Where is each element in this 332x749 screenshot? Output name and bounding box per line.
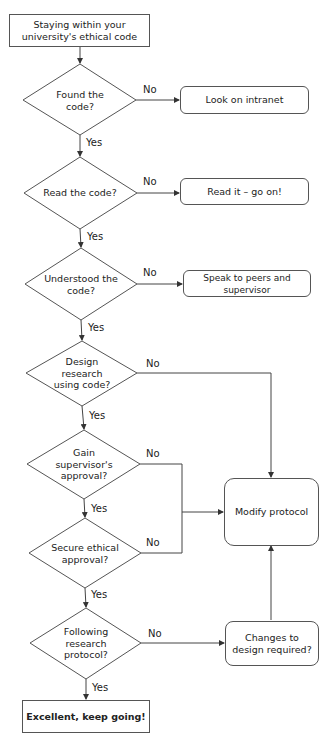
no-label-6: No bbox=[146, 537, 160, 548]
no-label-3: No bbox=[143, 267, 157, 278]
yes-label-4: Yes bbox=[89, 410, 105, 421]
decision-label-4: Design research using code? bbox=[48, 356, 116, 391]
end-box: Excellent, keep going! bbox=[22, 700, 150, 733]
changes-design-box: Changes to design required? bbox=[225, 621, 319, 666]
start-box: Staying within your university's ethical… bbox=[9, 14, 150, 47]
start-label: Staying within your university's ethical… bbox=[10, 19, 149, 43]
decision-label-3: Understood the code? bbox=[44, 273, 119, 296]
decision-label-7: Following research protocol? bbox=[56, 626, 116, 661]
no-label-1: No bbox=[143, 84, 157, 95]
look-intranet-label: Look on intranet bbox=[206, 94, 284, 106]
yes-label-6: Yes bbox=[91, 589, 107, 600]
modify-protocol-box: Modify protocol bbox=[224, 478, 319, 546]
read-it-label: Read it – go on! bbox=[207, 186, 282, 198]
no-label-5: No bbox=[146, 448, 160, 459]
no-label-2: No bbox=[143, 176, 157, 187]
end-label: Excellent, keep going! bbox=[26, 711, 145, 723]
no-label-4: No bbox=[146, 358, 160, 369]
changes-design-label: Changes to design required? bbox=[232, 632, 312, 656]
decision-label-5: Gain supervisor's approval? bbox=[51, 447, 117, 482]
yes-label-5: Yes bbox=[91, 503, 107, 514]
yes-label-7: Yes bbox=[92, 682, 108, 693]
read-it-box: Read it – go on! bbox=[180, 178, 309, 205]
decision-label-6: Secure ethical approval? bbox=[48, 542, 123, 565]
decision-label-2: Read the code? bbox=[35, 187, 125, 199]
no-label-7: No bbox=[148, 628, 162, 639]
speak-peers-label: Speak to peers and supervisor bbox=[184, 272, 310, 296]
yes-label-3: Yes bbox=[88, 322, 104, 333]
yes-label-2: Yes bbox=[87, 231, 103, 242]
modify-protocol-label: Modify protocol bbox=[235, 506, 308, 518]
look-intranet-box: Look on intranet bbox=[180, 86, 309, 114]
decision-label-1: Found the code? bbox=[45, 89, 115, 112]
speak-peers-box: Speak to peers and supervisor bbox=[183, 270, 311, 297]
yes-label-1: Yes bbox=[86, 137, 102, 148]
